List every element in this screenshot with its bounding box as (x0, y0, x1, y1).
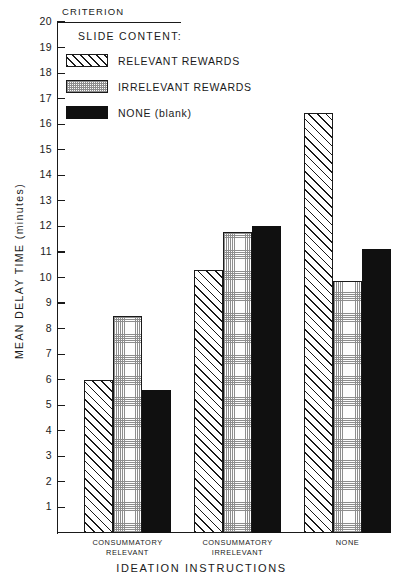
bar-group2-series1 (194, 270, 223, 533)
bar-group1-series1 (84, 380, 113, 533)
plot-area (58, 22, 372, 533)
criterion-label: CRITERION (62, 6, 124, 17)
y-tick-label-5: 5 (12, 398, 52, 410)
y-tick-label-7: 7 (12, 347, 52, 359)
x-axis-title: IDEATION INSTRUCTIONS (0, 562, 403, 574)
y-tick-label-15: 15 (12, 143, 52, 155)
bar-group1-series2 (113, 316, 142, 533)
bar-group2-series2 (223, 232, 252, 533)
y-tick-label-6: 6 (12, 373, 52, 385)
y-tick-label-17: 17 (12, 92, 52, 104)
x-category-label-3: NONE (282, 538, 403, 548)
bar-group-2 (194, 22, 281, 533)
y-tick-label-19: 19 (12, 41, 52, 53)
bar-group-3 (304, 22, 391, 533)
y-tick-label-18: 18 (12, 66, 52, 78)
y-tick-label-12: 12 (12, 219, 52, 231)
bar-group2-series3 (252, 226, 281, 533)
y-tick-label-1: 1 (12, 500, 52, 512)
y-tick-label-9: 9 (12, 296, 52, 308)
bar-chart-figure: MEAN DELAY TIME (minutes) CRITERION 2019… (0, 0, 403, 586)
y-tick-label-2: 2 (12, 475, 52, 487)
y-tick-label-4: 4 (12, 424, 52, 436)
y-tick-label-11: 11 (12, 245, 52, 257)
y-tick-label-3: 3 (12, 449, 52, 461)
y-tick-label-14: 14 (12, 168, 52, 180)
y-tick-label-13: 13 (12, 194, 52, 206)
y-tick-label-10: 10 (12, 271, 52, 283)
y-tick-label-16: 16 (12, 117, 52, 129)
bar-group3-series3 (362, 249, 391, 533)
bar-group3-series1 (304, 113, 333, 533)
y-tick-label-8: 8 (12, 322, 52, 334)
bar-group1-series3 (142, 390, 171, 533)
bar-group-1 (84, 22, 171, 533)
y-tick-label-20: 20 (12, 15, 52, 27)
bar-group3-series2 (333, 281, 362, 533)
